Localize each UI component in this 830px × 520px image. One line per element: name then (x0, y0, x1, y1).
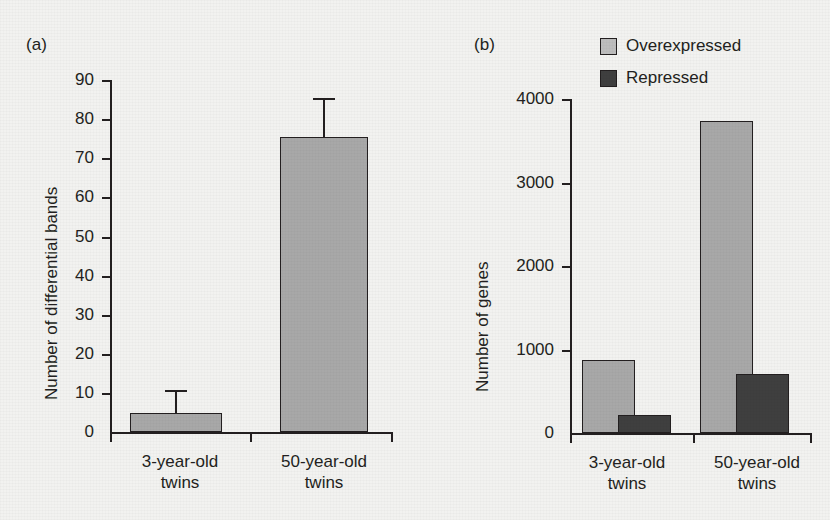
panel-b-ytick-2000 (562, 266, 570, 268)
panel-a-ytick-label-0: 0 (50, 422, 94, 442)
panel-b-bar-repressed-50-year-old (736, 374, 789, 433)
panel-a-errorbar-cap-50-year-old (313, 98, 335, 100)
panel-a-ytick-label-80: 80 (50, 109, 94, 129)
panel-a-xtick-right (391, 432, 393, 442)
panel-b-x-axis-line (570, 433, 812, 435)
panel-b-category-3-year-old-line2: twins (557, 474, 697, 495)
panel-b-category-50-year-old: 50-year-old twins (687, 453, 827, 494)
panel-b-ytick-4000 (562, 99, 570, 101)
panel-a-label: (a) (26, 35, 47, 55)
panel-b-category-3-year-old: 3-year-old twins (557, 453, 697, 494)
panel-a-y-axis-title: Number of differential bands (42, 187, 62, 400)
panel-a-ytick-70 (102, 158, 110, 160)
panel-b-category-50-year-old-line1: 50-year-old (687, 453, 827, 474)
panel-b-y-axis-title: Number of genes (473, 262, 493, 392)
panel-a-category-3-year-old: 3-year-old twins (110, 452, 250, 493)
legend-item-overexpressed: Overexpressed (600, 36, 741, 56)
panel-b-y-axis-line (570, 99, 572, 435)
panel-a-bar-50-year-old (280, 137, 368, 432)
panel-b-label: (b) (474, 35, 495, 55)
panel-b-xtick-left (570, 433, 572, 443)
panel-b-ytick-label-0: 0 (488, 423, 554, 443)
panel-b-category-3-year-old-line1: 3-year-old (557, 453, 697, 474)
panel-a: (a) Number of differential bands 90 80 7… (0, 0, 415, 520)
panel-a-bar-3-year-old (130, 413, 222, 432)
panel-a-ytick-90 (102, 80, 110, 82)
panel-b-xtick-right (810, 433, 812, 443)
panel-b-ytick-label-2000: 2000 (488, 256, 554, 276)
panel-b-ytick-label-3000: 3000 (488, 173, 554, 193)
panel-b-ytick-label-1000: 1000 (488, 340, 554, 360)
panel-a-ytick-label-50: 50 (50, 227, 94, 247)
legend-label-repressed: Repressed (626, 68, 708, 88)
panel-a-category-50-year-old-line2: twins (254, 473, 394, 494)
panel-a-errorbar-line-3-year-old (175, 390, 177, 414)
panel-a-ytick-label-70: 70 (50, 148, 94, 168)
panel-b-ytick-3000 (562, 183, 570, 185)
panel-a-ytick-label-30: 30 (50, 305, 94, 325)
panel-a-xtick-middle (250, 432, 252, 442)
panel-a-ytick-80 (102, 119, 110, 121)
panel-a-ytick-10 (102, 393, 110, 395)
panel-a-xtick-left (110, 432, 112, 442)
legend-item-repressed: Repressed (600, 68, 708, 88)
panel-a-category-50-year-old-line1: 50-year-old (254, 452, 394, 473)
panel-a-ytick-50 (102, 237, 110, 239)
panel-a-errorbar-line-50-year-old (323, 98, 325, 138)
panel-a-errorbar-cap-3-year-old (165, 390, 187, 392)
legend-swatch-repressed-icon (600, 70, 617, 87)
panel-a-ytick-label-90: 90 (50, 70, 94, 90)
panel-a-category-3-year-old-line2: twins (110, 473, 250, 494)
panel-a-category-3-year-old-line1: 3-year-old (110, 452, 250, 473)
panel-b-ytick-label-4000: 4000 (488, 89, 554, 109)
panel-a-ytick-60 (102, 197, 110, 199)
panel-b-xtick-middle (693, 433, 695, 443)
panel-a-ytick-label-60: 60 (50, 187, 94, 207)
panel-a-ytick-label-20: 20 (50, 344, 94, 364)
panel-a-y-axis-line (110, 80, 112, 434)
panel-a-ytick-30 (102, 315, 110, 317)
panel-a-ytick-20 (102, 354, 110, 356)
legend-swatch-overexpressed-icon (600, 38, 617, 55)
panel-b-category-50-year-old-line2: twins (687, 474, 827, 495)
panel-a-category-50-year-old: 50-year-old twins (254, 452, 394, 493)
panel-b-ytick-1000 (562, 350, 570, 352)
panel-a-ytick-label-10: 10 (50, 383, 94, 403)
panel-b-bar-repressed-3-year-old (618, 415, 671, 433)
panel-b: (b) Number of genes Overexpressed Repres… (415, 0, 830, 520)
panel-a-ytick-40 (102, 276, 110, 278)
panel-a-ytick-label-40: 40 (50, 266, 94, 286)
legend-label-overexpressed: Overexpressed (626, 36, 741, 56)
